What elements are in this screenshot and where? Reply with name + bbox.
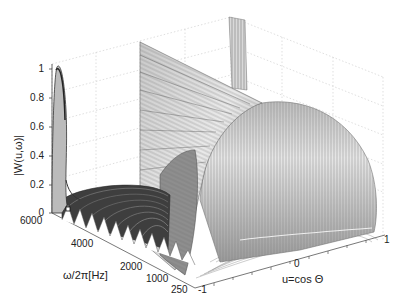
x-tick-1: 1 [384, 234, 390, 245]
x-axis-label: u=cos Θ [282, 273, 324, 285]
y-tick-2000: 2000 [120, 261, 143, 272]
y-axis-label: ω/2π[Hz] [63, 269, 108, 281]
z-tick-1: 1 [38, 63, 44, 74]
marker-square [66, 207, 70, 211]
z-axis [49, 64, 52, 213]
z-tick-0.6: 0.6 [30, 121, 44, 132]
z-axis-label: |W(u,ω)| [12, 135, 24, 176]
z-tick-labels: 1 0.8 0.6 0.4 0.2 0 [30, 63, 44, 218]
z-tick-0.4: 0.4 [30, 150, 44, 161]
y-tick-250: 250 [171, 284, 188, 295]
z-tick-0.8: 0.8 [30, 92, 44, 103]
y-tick-6000: 6000 [20, 215, 43, 226]
x-tick-minus1: -1 [198, 284, 207, 295]
z-tick-0.2: 0.2 [30, 179, 44, 190]
y-tick-4000: 4000 [71, 238, 94, 249]
x-tick-0: 0 [294, 258, 300, 269]
grating-lobe-spike [229, 17, 247, 90]
narrow-main-lobe [52, 66, 80, 213]
beam-pattern-3d-surface-plot: 1 0.8 0.6 0.4 0.2 0 6000 4000 2000 1000 … [0, 0, 399, 303]
y-tick-1000: 1000 [146, 273, 169, 284]
